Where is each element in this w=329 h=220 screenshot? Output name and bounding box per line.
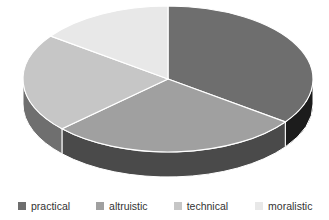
- legend-item-altruistic[interactable]: altruistic: [96, 201, 148, 212]
- legend-label-technical: technical: [187, 201, 228, 212]
- legend-label-moralistic: moralistic: [268, 201, 312, 212]
- pie-figure: [0, 0, 329, 192]
- legend-swatch-altruistic: [96, 202, 104, 210]
- legend-item-moralistic[interactable]: moralistic: [255, 201, 312, 212]
- pie-top-faces: [23, 6, 313, 152]
- chart-legend: practical altruistic technical moralisti…: [0, 192, 329, 220]
- legend-label-practical: practical: [31, 201, 70, 212]
- legend-swatch-moralistic: [255, 202, 263, 210]
- legend-item-technical[interactable]: technical: [174, 201, 228, 212]
- legend-swatch-technical: [174, 202, 182, 210]
- legend-label-altruistic: altruistic: [109, 201, 148, 212]
- legend-item-practical[interactable]: practical: [18, 201, 70, 212]
- legend-swatch-practical: [18, 202, 26, 210]
- pie-chart: practical altruistic technical moralisti…: [0, 0, 329, 220]
